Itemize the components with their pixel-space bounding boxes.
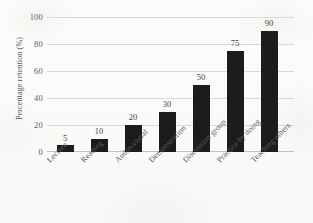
y-tick-80: 80 (34, 40, 43, 49)
y-tick-100: 100 (30, 13, 43, 22)
bar-value-audio-visual: 20 (116, 113, 150, 122)
bar-value-reading: 10 (82, 127, 116, 136)
bar-value-discussion-group: 50 (184, 73, 218, 82)
bar-value-demonstration: 30 (150, 100, 184, 109)
bar-value-lecture: 5 (48, 134, 82, 143)
y-tick-20: 20 (34, 121, 43, 130)
gridline-100 (47, 17, 294, 18)
plot-area: 5 10 20 30 50 75 90 (47, 17, 294, 152)
bar-value-teaching-others: 90 (252, 19, 286, 28)
bar-value-practice-by-doing: 75 (218, 39, 252, 48)
y-tick-0: 0 (39, 148, 43, 157)
gridline-80 (47, 44, 294, 45)
gridline-60 (47, 71, 294, 72)
y-tick-40: 40 (34, 94, 43, 103)
chart-screenshot: Percentage retention (%) 100 80 60 40 20… (0, 0, 313, 223)
y-tick-60: 60 (34, 67, 43, 76)
y-axis-tick-labels: 100 80 60 40 20 0 (18, 0, 43, 223)
